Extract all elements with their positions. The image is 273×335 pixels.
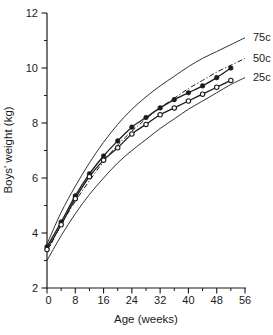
filled-circle-marker bbox=[186, 90, 191, 95]
75th-centile-reference-curve-line bbox=[47, 38, 245, 244]
open-circle-marker bbox=[116, 146, 120, 150]
open-circle-marker bbox=[73, 196, 77, 200]
x-tick-label: 56 bbox=[239, 294, 251, 306]
open-circle-marker bbox=[172, 106, 176, 110]
open-circle-marker bbox=[200, 92, 204, 96]
filled-circle-marker bbox=[158, 106, 163, 111]
filled-circle-marker bbox=[229, 66, 234, 71]
y-tick-label: 8 bbox=[32, 117, 38, 129]
filled-circle-marker bbox=[172, 97, 177, 102]
centile-label-50c: 50c bbox=[253, 52, 271, 64]
observed-weight-open-circles-line bbox=[47, 80, 231, 249]
open-circle-marker bbox=[144, 122, 148, 126]
centile-label-25c: 25c bbox=[253, 71, 271, 83]
filled-circle-marker bbox=[130, 125, 135, 130]
y-tick-label: 10 bbox=[26, 62, 38, 74]
x-tick-label: 8 bbox=[72, 294, 78, 306]
25th-centile-reference-curve-line bbox=[47, 78, 245, 261]
y-tick-label: 12 bbox=[26, 7, 38, 19]
x-tick-label: 32 bbox=[154, 294, 166, 306]
y-tick-label: 6 bbox=[32, 172, 38, 184]
open-circle-marker bbox=[87, 174, 91, 178]
centile-label-75c: 75c bbox=[253, 31, 271, 43]
filled-circle-marker bbox=[115, 139, 120, 144]
open-circle-marker bbox=[215, 85, 219, 89]
y-tick-label: 4 bbox=[32, 227, 38, 239]
x-axis-title: Age (weeks) bbox=[114, 313, 178, 325]
y-axis-title: Boys' weight (kg) bbox=[2, 106, 14, 193]
open-circle-marker bbox=[158, 113, 162, 117]
open-circle-marker bbox=[101, 158, 105, 162]
open-circle-marker bbox=[186, 99, 190, 103]
x-tick-label: 0 bbox=[45, 294, 51, 306]
centile-curve-labels: 75c50c25c bbox=[253, 31, 271, 83]
open-circle-marker bbox=[229, 78, 233, 82]
growth-chart-figure: 2468101208162432404856 75c50c25c Boys' w… bbox=[0, 0, 273, 335]
x-tick-label: 24 bbox=[126, 294, 138, 306]
x-tick-label: 40 bbox=[182, 294, 194, 306]
boys-weight-growth-chart: 2468101208162432404856 75c50c25c Boys' w… bbox=[0, 0, 273, 335]
open-circle-marker bbox=[130, 132, 134, 136]
axes bbox=[46, 13, 246, 289]
x-tick-label: 16 bbox=[97, 294, 109, 306]
tick-marks bbox=[42, 13, 246, 294]
open-circle-marker bbox=[45, 247, 49, 251]
open-circle-marker bbox=[59, 223, 63, 227]
x-tick-label: 48 bbox=[211, 294, 223, 306]
y-tick-label: 2 bbox=[32, 282, 38, 294]
filled-circle-marker bbox=[214, 75, 219, 80]
filled-circle-marker bbox=[144, 115, 149, 120]
filled-circle-marker bbox=[200, 84, 205, 89]
data-curves bbox=[45, 38, 245, 261]
